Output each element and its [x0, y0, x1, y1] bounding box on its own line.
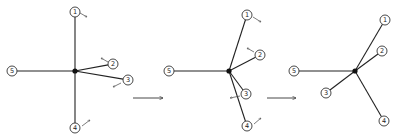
edge-hub-to-node-2 [75, 65, 108, 71]
node-label: 4 [382, 117, 386, 125]
node-1: 1 [380, 15, 390, 25]
node-2: 2 [247, 48, 265, 60]
edge-hub-to-node-3 [330, 71, 355, 90]
node-label: 5 [167, 67, 171, 75]
node-label: 4 [245, 122, 249, 130]
node-2: 2 [101, 58, 118, 69]
diagram-canvas: 123451234512345 [0, 0, 397, 138]
motion-arrow-icon [230, 96, 240, 98]
node-3: 3 [113, 75, 133, 87]
edge-hub-to-node-2 [355, 54, 378, 71]
node-label: 2 [258, 51, 262, 59]
motion-arrow-icon [253, 17, 261, 22]
star-graph-relaxation-diagram: 123451234512345 [0, 0, 397, 138]
node-2: 2 [377, 46, 387, 56]
motion-arrow-icon [247, 48, 254, 52]
node-1: 1 [70, 7, 87, 17]
node-5: 5 [289, 66, 299, 76]
motion-arrow-icon [113, 83, 121, 87]
node-3: 3 [230, 89, 251, 99]
panels-layer: 123451234512345 [7, 7, 390, 133]
panel-stage-3: 12345 [289, 15, 390, 126]
node-label: 1 [383, 16, 387, 24]
node-label: 3 [126, 76, 130, 84]
motion-arrow-icon [80, 13, 87, 17]
node-label: 3 [324, 89, 328, 97]
node-3: 3 [321, 88, 331, 98]
node-4: 4 [70, 120, 90, 133]
node-label: 2 [380, 47, 384, 55]
node-label: 5 [292, 67, 296, 75]
hub-node [72, 68, 77, 73]
hub-node [226, 68, 231, 73]
motion-arrow-icon [254, 118, 261, 124]
node-4: 4 [379, 116, 389, 126]
node-label: 1 [245, 11, 249, 19]
node-label: 3 [244, 90, 248, 98]
node-label: 5 [10, 67, 14, 75]
edge-hub-to-node-3 [75, 71, 123, 79]
node-label: 2 [111, 60, 115, 68]
node-label: 1 [73, 8, 77, 16]
panel-stage-2: 12345 [164, 10, 265, 131]
motion-arrow-icon [101, 58, 108, 62]
edge-hub-to-node-4 [355, 71, 381, 117]
panel-stage-1: 12345 [7, 7, 133, 133]
node-label: 4 [73, 124, 77, 132]
node-5: 5 [7, 66, 17, 76]
node-5: 5 [164, 66, 174, 76]
edge-hub-to-node-3 [229, 71, 243, 90]
motion-arrow-icon [82, 120, 90, 126]
hub-node [352, 68, 357, 73]
